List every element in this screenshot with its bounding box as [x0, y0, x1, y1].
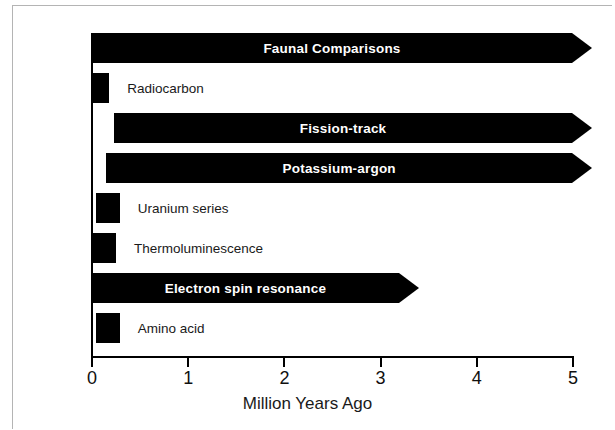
bar-label: Potassium-argon [106, 153, 572, 183]
x-axis-tick-label: 5 [558, 368, 588, 389]
bar-label: Fission-track [114, 113, 572, 143]
bar-body [92, 233, 116, 263]
bar-label: Electron spin resonance [92, 273, 399, 303]
x-axis-tick [91, 356, 93, 367]
y-axis-line [91, 33, 93, 358]
x-axis-tick [380, 356, 382, 367]
bar-label: Thermoluminescence [134, 233, 263, 263]
x-axis-tick [283, 356, 285, 367]
x-axis-line [91, 356, 573, 358]
x-axis-title: Million Years Ago [0, 394, 615, 414]
x-axis-tick-label: 0 [77, 368, 107, 389]
x-axis-tick-label: 1 [173, 368, 203, 389]
bar-row: Electron spin resonance [92, 273, 419, 303]
bar-row: Uranium series [96, 193, 120, 223]
bar-label: Uranium series [138, 193, 229, 223]
x-axis-tick-label: 2 [269, 368, 299, 389]
bar-row: Faunal Comparisons [92, 33, 592, 63]
bar-arrowhead-icon [572, 113, 592, 143]
bar-row: Amino acid [96, 313, 120, 343]
bar-arrowhead-icon [572, 33, 592, 63]
bar-body [96, 193, 120, 223]
x-axis-tick-label: 3 [366, 368, 396, 389]
bar-arrowhead-icon [399, 273, 419, 303]
plot-area: Faunal ComparisonsRadiocarbonFission-tra… [0, 0, 615, 430]
x-axis-tick [476, 356, 478, 367]
x-axis-tick [572, 356, 574, 367]
bar-body [93, 73, 109, 103]
bar-row: Thermoluminescence [92, 233, 116, 263]
bar-label: Faunal Comparisons [92, 33, 572, 63]
x-axis-tick [187, 356, 189, 367]
bar-body [96, 313, 120, 343]
bar-label: Radiocarbon [127, 73, 204, 103]
bar-label: Amino acid [138, 313, 205, 343]
bar-arrowhead-icon [572, 153, 592, 183]
chart-figure: Faunal ComparisonsRadiocarbonFission-tra… [0, 0, 615, 430]
bar-row: Fission-track [114, 113, 592, 143]
bar-row: Potassium-argon [106, 153, 592, 183]
x-axis-tick-label: 4 [462, 368, 492, 389]
bar-row: Radiocarbon [93, 73, 109, 103]
